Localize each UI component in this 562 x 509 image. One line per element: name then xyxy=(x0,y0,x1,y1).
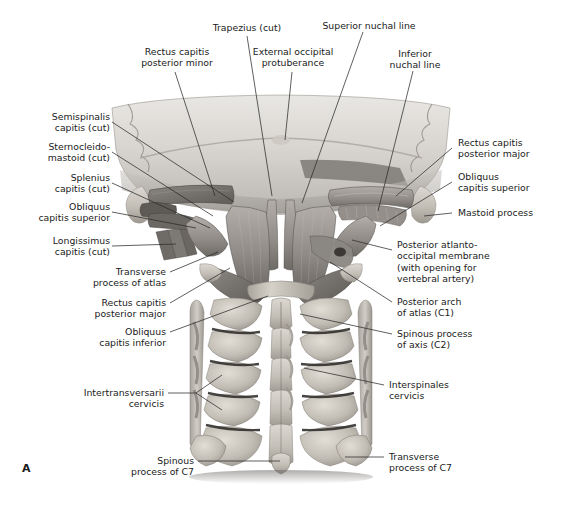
label-splenius-capitis-cut: Splenius capitis (cut) xyxy=(18,172,110,195)
label-spinous-process-of-axis: Spinous process of axis (C2) xyxy=(397,328,509,351)
label-posterior-atlantooccipital-membrane: Posterior atlanto- occipital membrane (w… xyxy=(397,239,511,285)
label-rectus-capitis-posterior-major-left: Rectus capitis posterior major xyxy=(60,297,166,320)
label-superior-nuchal-line: Superior nuchal line xyxy=(300,20,438,31)
label-rectus-capitis-posterior-minor: Rectus capitis posterior minor xyxy=(122,46,232,69)
figure-letter: A xyxy=(22,462,31,475)
label-transverse-process-of-c7: Transverse process of C7 xyxy=(389,451,493,474)
label-inferior-nuchal-line: Inferior nuchal line xyxy=(370,48,460,71)
cervical-spine-column xyxy=(189,281,373,484)
label-intertransversarii-cervicis: Intertransversarii cervicis xyxy=(52,387,164,410)
label-posterior-arch-of-atlas: Posterior arch of atlas (C1) xyxy=(397,296,507,319)
label-obliquus-capitis-superior-left: Obliquus capitis superior xyxy=(10,201,110,224)
label-sternocleidomastoid-cut: Sternocleido- mastoid (cut) xyxy=(6,141,110,164)
spinous-processes xyxy=(269,328,293,466)
label-mastoid-process: Mastoid process xyxy=(458,207,562,218)
label-obliquus-capitis-superior-right: Obliquus capitis superior xyxy=(458,171,562,194)
label-external-occipital-protuberance: External occipital protuberance xyxy=(234,46,352,69)
anatomical-figure: Trapezius (cut) Superior nuchal line Rec… xyxy=(0,0,562,509)
label-spinous-process-of-c7: Spinous process of C7 xyxy=(90,455,194,478)
label-trapezius-cut: Trapezius (cut) xyxy=(180,22,314,33)
label-semispinalis-capitis-cut: Semispinalis capitis (cut) xyxy=(10,111,110,134)
label-rectus-capitis-posterior-major-right: Rectus capitis posterior major xyxy=(458,137,562,160)
label-transverse-process-of-atlas: Transverse process of atlas xyxy=(62,266,166,289)
label-obliquus-capitis-inferior: Obliquus capitis inferior xyxy=(62,326,166,349)
label-longissimus-capitis-cut: Longissimus capitis (cut) xyxy=(14,235,110,258)
label-interspinales-cervicis: Interspinales cervicis xyxy=(389,379,493,402)
